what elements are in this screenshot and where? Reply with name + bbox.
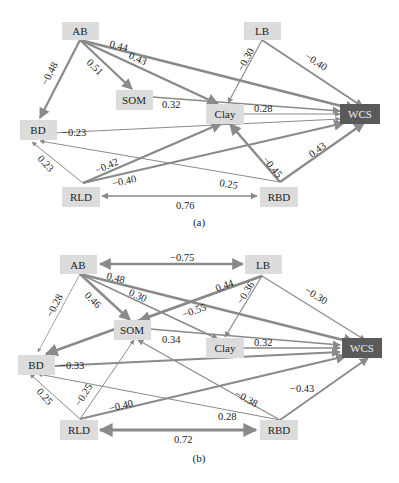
edge-lb-wcs: [262, 40, 363, 107]
svg-text:RLD: RLD: [68, 424, 90, 436]
label-rld-wcs: −0.40: [108, 397, 134, 414]
node-wcs: WCS: [342, 338, 382, 358]
svg-text:LB: LB: [255, 25, 269, 37]
svg-text:LB: LB: [256, 259, 270, 271]
node-ab: AB: [62, 22, 99, 40]
label-ab-wcs: 0.48: [106, 270, 126, 285]
node-bd: BD: [18, 355, 55, 375]
svg-text:WCS: WCS: [350, 342, 374, 354]
edge-labels-a: 0.44 0.43 0.51 −0.48 −0.30 −0.40 0.32 0.…: [36, 38, 330, 211]
label-bd-wcs: −0.23: [62, 127, 86, 138]
edge-bd-wcs: [52, 119, 340, 133]
node-rbd: RBD: [260, 420, 298, 440]
edge-rld-clay: [83, 123, 222, 183]
label-rbd-wcs: −0.43: [290, 383, 314, 394]
label-rld-rbd: 0.72: [174, 434, 192, 445]
label-rbd-clay: −0.45: [260, 154, 284, 180]
node-clay: Clay: [206, 104, 244, 124]
svg-text:SOM: SOM: [122, 94, 146, 106]
svg-text:WCS: WCS: [348, 108, 372, 120]
svg-text:BD: BD: [30, 124, 45, 136]
label-rld-bd: 0.23: [36, 153, 56, 174]
label-lb-bd: 0.44: [214, 277, 236, 294]
path-diagrams: 0.44 0.43 0.51 −0.48 −0.30 −0.40 0.32 0.…: [0, 0, 399, 483]
label-som-wcs: 0.32: [162, 99, 180, 110]
svg-text:AB: AB: [70, 259, 85, 271]
label-ab-wcs: 0.44: [109, 38, 130, 53]
label-rbd-bd: 0.25: [219, 177, 239, 191]
node-rld: RLD: [60, 420, 98, 440]
label-ab-bd: −0.28: [44, 292, 65, 319]
svg-text:SOM: SOM: [120, 324, 144, 336]
node-wcs: WCS: [340, 104, 380, 124]
svg-text:Clay: Clay: [215, 108, 236, 120]
label-ab-lb: −0.75: [170, 252, 194, 263]
label-rld-bd: 0.25: [35, 386, 55, 407]
node-bd: BD: [20, 120, 57, 140]
label-rbd-som: −0.38: [233, 388, 260, 409]
edge-rbd-bd: [40, 141, 280, 182]
node-lb: LB: [245, 255, 282, 274]
label-som-wcs: 0.34: [162, 334, 181, 345]
label-bd-wcs: −0.33: [60, 360, 84, 371]
node-som: SOM: [114, 320, 151, 340]
label-clay-wcs: 0.32: [254, 337, 272, 348]
label-lb-clay: −0.30: [235, 46, 256, 73]
label-clay-wcs: 0.28: [254, 103, 272, 114]
node-rbd: RBD: [260, 187, 298, 207]
svg-text:RBD: RBD: [268, 191, 291, 203]
svg-text:Clay: Clay: [215, 342, 236, 354]
node-som: SOM: [116, 90, 153, 110]
label-rbd-bd: 0.28: [218, 411, 236, 422]
node-rld: RLD: [62, 187, 100, 207]
svg-text:RLD: RLD: [70, 191, 92, 203]
caption-a: (a): [193, 216, 206, 229]
svg-text:BD: BD: [28, 359, 43, 371]
edge-rld-wcs: [83, 123, 344, 183]
caption-b: (b): [193, 452, 206, 465]
label-ab-bd: −0.48: [39, 60, 60, 87]
label-rld-rbd: 0.76: [176, 200, 194, 211]
diagram-b: −0.75 0.48 0.30 0.46 −0.28 0.44 −0.55 −0…: [18, 252, 382, 465]
svg-text:AB: AB: [72, 25, 87, 37]
diagram-a: 0.44 0.43 0.51 −0.48 −0.30 −0.40 0.32 0.…: [20, 22, 380, 229]
svg-text:RBD: RBD: [268, 424, 291, 436]
edge-bd-wcs: [55, 352, 340, 366]
node-lb: LB: [244, 22, 281, 40]
edge-lb-wcs: [262, 276, 365, 340]
label-rld-som: −0.25: [72, 382, 94, 408]
node-clay: Clay: [206, 338, 244, 358]
node-ab: AB: [60, 255, 97, 274]
